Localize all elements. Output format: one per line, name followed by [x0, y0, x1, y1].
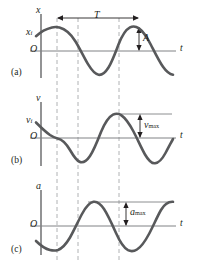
max-acceleration-label: amax [130, 207, 146, 217]
panel-a-label: (a) [11, 68, 22, 78]
max-velocity-label: vmax [144, 120, 159, 130]
panel-c-origin-label: O [30, 219, 37, 229]
max-acceleration-subscript: max [135, 209, 146, 216]
panel-b-initial-velocity-label: vi [26, 115, 32, 125]
panel-b [30, 102, 176, 166]
panel-c-y-axis-label: a [36, 181, 41, 191]
panel-a [30, 14, 176, 78]
shm-graph-figure: x xi O t T A (a) v vi O t vmax (b) a O t… [0, 0, 200, 276]
dashed-guide-lines [57, 18, 119, 262]
max-velocity-subscript: max [148, 122, 159, 129]
panel-c-label: (c) [11, 245, 22, 255]
panel-b-vmax-arrow [137, 114, 142, 138]
panel-c-amax-arrow [123, 202, 128, 226]
panel-a-origin-label: O [30, 44, 37, 54]
panel-c-x-axis-label: t [180, 219, 183, 229]
panel-b-y-axis-label: v [36, 93, 40, 103]
panel-a-y-axis-label: x [36, 5, 40, 15]
panel-a-x-axis-label: t [180, 44, 183, 54]
panel-b-x-axis-label: t [180, 131, 183, 141]
period-label: T [94, 10, 100, 20]
amplitude-label: A [143, 33, 149, 43]
panel-b-origin-label: O [30, 131, 37, 141]
panel-b-label: (b) [11, 156, 22, 166]
panel-a-initial-position-label: xi [26, 27, 32, 37]
panel-b-initial-velocity-subscript: i [30, 117, 32, 124]
panel-c [30, 190, 176, 255]
panel-a-initial-position-subscript: i [30, 29, 32, 36]
